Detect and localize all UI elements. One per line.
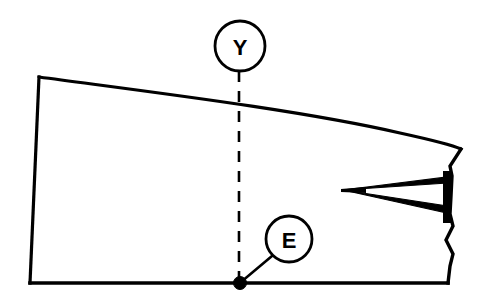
- callout-y-label: Y: [233, 35, 248, 60]
- callout-e-leader: [241, 256, 272, 282]
- diagram-canvas: Y E: [0, 0, 481, 306]
- technical-drawing: Y E: [0, 0, 481, 306]
- body-outline: [30, 77, 461, 283]
- left-edge: [30, 77, 39, 283]
- callout-e-label: E: [282, 228, 297, 253]
- callout-y[interactable]: Y: [215, 21, 265, 71]
- wedge-detail: [341, 171, 451, 223]
- top-curved-edge: [39, 77, 461, 149]
- wedge-lower-arm: [343, 190, 447, 213]
- wedge-end-bar: [443, 171, 451, 223]
- datum-point-dot[interactable]: [234, 277, 247, 290]
- wedge-apex: [341, 187, 366, 193]
- callout-e[interactable]: E: [266, 216, 312, 262]
